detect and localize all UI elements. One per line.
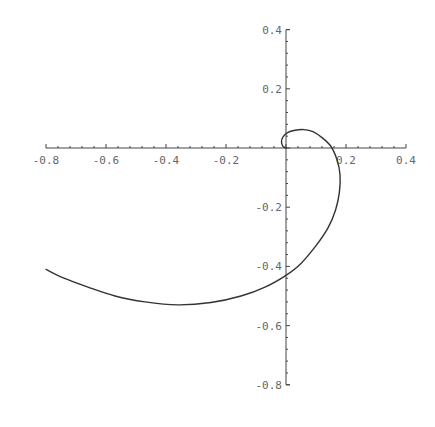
- y-tick-label: -0.8: [256, 379, 283, 392]
- x-tick-label: -0.8: [33, 154, 60, 167]
- y-tick-label: 0.2: [262, 83, 282, 96]
- y-tick-label: -0.2: [256, 201, 283, 214]
- spiral-curve: [46, 130, 340, 305]
- x-tick-label: 0.4: [396, 154, 416, 167]
- tick-labels: -0.8-0.6-0.4-0.20.20.40.40.2-0.2-0.4-0.6…: [33, 24, 417, 392]
- spiral-plot: -0.8-0.6-0.4-0.20.20.40.40.2-0.2-0.4-0.6…: [0, 0, 435, 427]
- y-tick-label: -0.6: [256, 320, 283, 333]
- x-tick-label: -0.4: [153, 154, 180, 167]
- x-tick-label: -0.6: [93, 154, 120, 167]
- y-tick-label: -0.4: [256, 260, 283, 273]
- y-tick-label: 0.4: [262, 24, 282, 37]
- x-tick-label: -0.2: [213, 154, 240, 167]
- axes: [46, 30, 406, 385]
